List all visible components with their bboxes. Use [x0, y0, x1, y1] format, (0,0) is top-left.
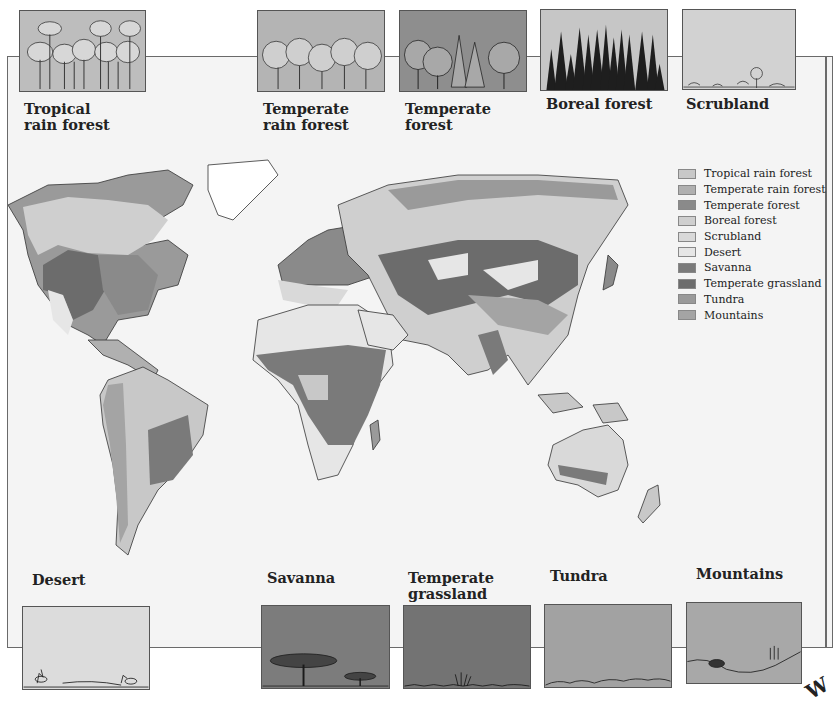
swatch-temperate-rain-forest — [678, 185, 696, 195]
legend-item: Desert — [678, 244, 826, 260]
mountains-illustration — [687, 603, 801, 683]
legend-item: Boreal forest — [678, 213, 826, 229]
legend-item: Mountains — [678, 307, 826, 323]
label-temperate-grassland: Temperate grassland — [408, 570, 494, 602]
frame-border — [825, 56, 827, 648]
panel-desert — [22, 606, 150, 690]
tundra-illustration — [545, 605, 671, 687]
label-desert: Desert — [32, 572, 86, 588]
panel-boreal-forest — [540, 9, 668, 91]
world-biome-map — [8, 145, 678, 565]
swatch-tropical-rain-forest — [678, 169, 696, 179]
swatch-desert — [678, 247, 696, 257]
panel-tundra — [544, 604, 672, 688]
swatch-tundra — [678, 294, 696, 304]
swatch-temperate-forest — [678, 200, 696, 210]
indonesia — [538, 393, 628, 423]
grassland-illustration — [404, 606, 530, 688]
legend-item: Tundra — [678, 292, 826, 308]
corner-mark: W — [802, 672, 833, 701]
panel-savanna — [261, 605, 390, 689]
panel-temperate-forest — [399, 10, 527, 92]
panel-scrubland — [682, 9, 796, 90]
label-savanna: Savanna — [267, 570, 335, 586]
panel-mountains — [686, 602, 802, 684]
temperate-forest-illustration — [400, 11, 526, 91]
legend-item: Temperate rain forest — [678, 182, 826, 198]
label-boreal-forest: Boreal forest — [546, 96, 652, 112]
swatch-boreal-forest — [678, 216, 696, 226]
label-tundra: Tundra — [550, 568, 608, 584]
panel-temperate-rain-forest — [257, 10, 385, 92]
australia — [548, 425, 628, 497]
swatch-scrubland — [678, 232, 696, 242]
label-tropical-rain-forest: Tropical rain forest — [24, 101, 110, 133]
swatch-temperate-grassland — [678, 279, 696, 289]
scrubland-illustration — [683, 10, 795, 89]
swatch-savanna — [678, 263, 696, 273]
label-scrubland: Scrubland — [686, 96, 769, 112]
savanna-illustration — [262, 606, 389, 688]
temperate-rain-trees-illustration — [258, 11, 384, 91]
japan — [603, 255, 618, 290]
swatch-mountains — [678, 310, 696, 320]
legend-item: Tropical rain forest — [678, 166, 826, 182]
panel-tropical-rain-forest — [19, 10, 146, 92]
panel-temperate-grassland — [403, 605, 531, 689]
madagascar — [370, 420, 380, 450]
legend-item: Temperate grassland — [678, 276, 826, 292]
legend-item: Savanna — [678, 260, 826, 276]
greenland — [208, 160, 278, 220]
tropical-trees-illustration — [20, 11, 145, 91]
new-zealand — [638, 485, 660, 523]
label-temperate-rain-forest: Temperate rain forest — [263, 101, 349, 133]
label-temperate-forest: Temperate forest — [405, 101, 491, 133]
legend: Tropical rain forest Temperate rain fore… — [678, 166, 826, 323]
boreal-conifers-illustration — [541, 10, 667, 90]
label-mountains: Mountains — [696, 566, 783, 582]
desert-illustration — [23, 607, 149, 689]
legend-item: Scrubland — [678, 229, 826, 245]
legend-item: Temperate forest — [678, 197, 826, 213]
